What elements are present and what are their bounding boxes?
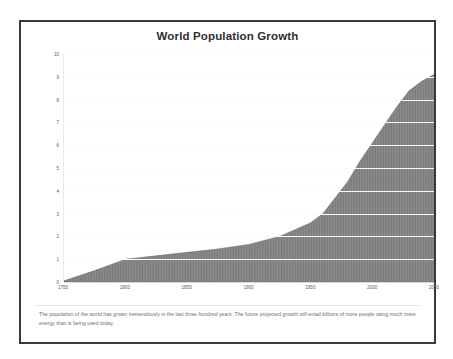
y-axis-tick: 10 [45,52,59,57]
y-axis-tick-labels: 012345678910 [45,54,59,290]
plot-area [63,54,434,282]
x-axis-tick: 2000 [367,285,377,290]
page-title: World Population Growth [21,30,434,42]
area-fill [64,75,434,282]
gridline [64,77,434,78]
y-axis-tick: 0 [45,280,59,285]
y-axis-tick: 5 [45,166,59,171]
gridline [64,236,434,237]
gridline [64,122,434,123]
divider [35,305,420,306]
x-axis-tick: 1850 [182,285,192,290]
x-axis-tick: 1800 [120,285,130,290]
gridline [64,282,434,283]
y-axis-tick: 6 [45,143,59,148]
gridline [64,168,434,169]
y-axis-tick: 7 [45,120,59,125]
gridline [64,100,434,101]
gridline [64,259,434,260]
x-axis-tick-labels: 1750180018501900195020002050 [63,285,434,297]
y-axis-tick: 4 [45,188,59,193]
gridline [64,191,434,192]
y-axis-tick: 2 [45,234,59,239]
figure-caption: The population of the world has grown tr… [39,310,417,328]
x-axis-tick: 1750 [58,285,68,290]
y-axis-tick: 3 [45,211,59,216]
x-axis-tick: 1900 [243,285,253,290]
x-axis-tick: 1950 [305,285,315,290]
y-axis-tick: 9 [45,74,59,79]
gridline [64,214,434,215]
chart-figure: World Population Growth World Population… [19,20,436,344]
gridline [64,54,434,55]
plot-container: World Population (billions) 012345678910… [35,54,434,290]
y-axis-tick: 1 [45,257,59,262]
y-axis-tick: 8 [45,97,59,102]
gridline [64,145,434,146]
x-axis-tick: 2050 [429,285,439,290]
